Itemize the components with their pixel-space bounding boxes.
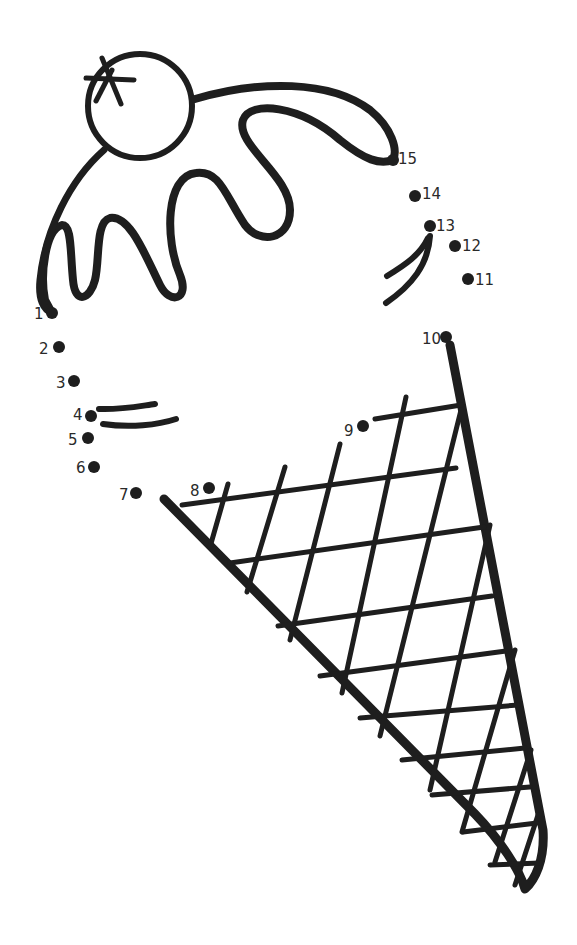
dot-number-label: 14 [422, 185, 441, 203]
dot-5: 5 [68, 431, 94, 449]
dot-number-label: 3 [56, 374, 66, 392]
dot-number-label: 8 [190, 482, 200, 500]
dot-3: 3 [56, 374, 80, 392]
dot-marker [82, 432, 94, 444]
dot-13: 13 [424, 217, 455, 235]
dot-marker [462, 273, 474, 285]
dot-number-label: 5 [68, 431, 78, 449]
dot-marker [357, 420, 369, 432]
waffle-cone-drawing [164, 345, 543, 889]
dot-2: 2 [39, 340, 65, 358]
dot-number-label: 11 [475, 271, 494, 289]
dot-number-label: 7 [119, 486, 129, 504]
dot-8: 8 [190, 482, 215, 500]
dot-number-label: 10 [422, 330, 441, 348]
ice-cream-scoop-drawing [40, 54, 430, 426]
dot-number-label: 9 [344, 422, 354, 440]
dot-number-label: 13 [436, 217, 455, 235]
dot-marker [130, 487, 142, 499]
cherry-icon [88, 54, 192, 158]
dot-marker [203, 482, 215, 494]
dot-number-label: 6 [76, 459, 86, 477]
dot-marker [424, 220, 436, 232]
numbered-dots: 123456789101112131415 [34, 150, 494, 504]
dot-marker [440, 331, 452, 343]
dot-marker [409, 190, 421, 202]
dot-marker [46, 307, 58, 319]
dot-number-label: 4 [73, 406, 83, 424]
dot-marker [449, 240, 461, 252]
dot-14: 14 [409, 185, 441, 203]
dot-marker [85, 410, 97, 422]
dot-12: 12 [449, 237, 481, 255]
dot-number-label: 15 [398, 150, 417, 168]
dot-11: 11 [462, 271, 494, 289]
dot-4: 4 [73, 406, 97, 424]
dot-7: 7 [119, 486, 142, 504]
dot-marker [53, 341, 65, 353]
dot-number-label: 12 [462, 237, 481, 255]
dot-6: 6 [76, 459, 100, 477]
dot-marker [68, 375, 80, 387]
connect-the-dots-worksheet: 123456789101112131415 [0, 0, 577, 945]
dot-marker [88, 461, 100, 473]
dot-number-label: 2 [39, 340, 49, 358]
dot-number-label: 1 [34, 305, 44, 323]
dot-9: 9 [344, 420, 369, 440]
